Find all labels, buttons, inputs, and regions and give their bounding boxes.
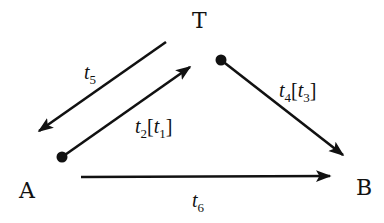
node-a-label: A (18, 178, 36, 203)
edge-t2-arrow (62, 67, 190, 157)
edge-t4-label: t4[t3] (279, 79, 316, 105)
edge-t4-arrow (221, 60, 343, 155)
edge-t6-arrow (81, 176, 330, 177)
edge-t2-label: t2[t1] (135, 115, 172, 141)
edge-t4: t4[t3] (216, 55, 344, 156)
transition-diagram: T A B t5 t2[t1] t4[t3] t6 (0, 0, 384, 223)
edge-t6: t6 (81, 176, 330, 215)
edge-t2: t2[t1] (57, 67, 191, 163)
node-t-label: T (192, 8, 207, 33)
edge-t5-label: t5 (84, 61, 96, 87)
node-b-label: B (356, 175, 372, 200)
edge-t6-label: t6 (192, 189, 205, 215)
